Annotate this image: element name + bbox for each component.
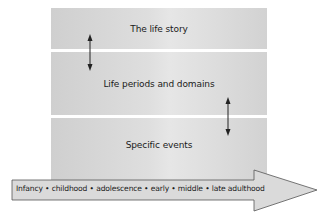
level-life-story-label: The life story bbox=[130, 24, 188, 34]
level-specific-events-label: Specific events bbox=[126, 140, 193, 150]
level-life-periods-label: Life periods and domains bbox=[103, 79, 214, 89]
level-life-story: The life story bbox=[51, 8, 267, 49]
level-life-periods: Life periods and domains bbox=[51, 52, 267, 115]
level-specific-events: Specific events bbox=[51, 118, 267, 180]
timeline-label: Infancy • childhood • adolescence • earl… bbox=[16, 184, 265, 193]
